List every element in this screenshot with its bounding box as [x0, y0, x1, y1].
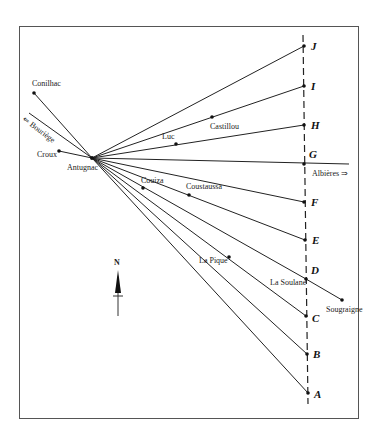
point-C — [304, 314, 308, 318]
extra-lines — [29, 93, 342, 300]
label-castillou: Castillou — [210, 122, 239, 131]
diagram-canvas: JIHGFEDCBAConilhacCrouxLucCastillouCouiz… — [0, 0, 376, 434]
label-G: G — [309, 148, 317, 160]
meridian-dashed-line — [303, 35, 308, 404]
point-markers — [32, 44, 344, 395]
label-croux: Croux — [37, 150, 57, 159]
label-D: D — [310, 264, 319, 276]
label-I: I — [310, 80, 316, 92]
label-antugnac: Antugnac — [67, 163, 99, 172]
point-castillou — [210, 115, 214, 119]
point-G — [302, 162, 306, 166]
point-coustaussa — [187, 193, 191, 197]
point-H — [302, 123, 306, 127]
label-couiza: Couiza — [141, 176, 164, 185]
label-sougraigne: Sougraigne — [326, 305, 363, 314]
label-B: B — [312, 348, 320, 360]
label-coustaussa: Coustaussa — [186, 182, 222, 191]
label-E: E — [311, 234, 319, 246]
point-B — [305, 352, 309, 356]
label-C: C — [312, 312, 320, 324]
labels: JIHGFEDCBAConilhacCrouxLucCastillouCouiz… — [21, 40, 363, 400]
point-A — [306, 391, 310, 395]
point-antugnac — [90, 156, 94, 160]
label-albieres: Albières ⇒ — [312, 169, 348, 178]
label-J: J — [310, 40, 317, 52]
label-conilhac: Conilhac — [32, 79, 61, 88]
ray-to-E — [92, 158, 305, 240]
point-F — [302, 200, 306, 204]
line-conilhac — [34, 93, 92, 158]
label-la-pique: La Pique — [199, 256, 228, 265]
point-E — [303, 238, 307, 242]
label-F: F — [310, 196, 319, 208]
label-A: A — [313, 388, 321, 400]
line-sougraigne — [306, 279, 342, 300]
point-la-pique — [227, 255, 231, 259]
point-luc — [174, 142, 178, 146]
ray-to-F — [92, 158, 304, 202]
point-I — [302, 84, 306, 88]
ray-to-A — [92, 158, 308, 393]
point-couiza — [141, 186, 145, 190]
label-la-soulane: La Soulane — [270, 278, 307, 287]
sight-lines — [92, 46, 349, 393]
north-arrow-icon: N — [113, 258, 123, 316]
point-sougraigne — [340, 298, 344, 302]
label-luc: Luc — [162, 132, 175, 141]
label-H: H — [310, 119, 320, 131]
north-label: N — [114, 258, 120, 267]
point-croux — [57, 149, 61, 153]
point-J — [302, 44, 306, 48]
ray-to-I — [92, 86, 304, 158]
point-conilhac — [32, 91, 36, 95]
